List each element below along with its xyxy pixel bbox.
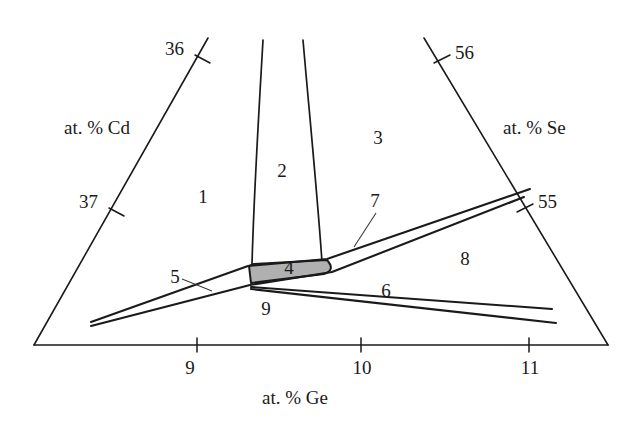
region-label-9: 9 [261, 298, 271, 319]
right-tick-label-56: 56 [455, 42, 474, 63]
region-label-8: 8 [460, 248, 470, 269]
left-tick-37 [109, 208, 124, 216]
region-label-7: 7 [370, 190, 380, 211]
bottom-tick-label-10: 10 [353, 357, 372, 378]
region-label-5: 5 [170, 266, 180, 287]
phase-diagram-canvas: at. % Cd at. % Se at. % Ge 36 37 56 55 9… [0, 0, 644, 426]
bottom-tick-label-11: 11 [521, 357, 539, 378]
left-axis-line [34, 38, 208, 345]
bottom-axis-title: at. % Ge [262, 387, 328, 408]
left-tick-36 [195, 55, 210, 63]
lower-fan-boundaries [251, 287, 556, 323]
vertical-boundaries [252, 40, 322, 264]
left-tick-label-37: 37 [79, 191, 98, 212]
ternary-phase-diagram: at. % Cd at. % Se at. % Ge 36 37 56 55 9… [0, 0, 644, 426]
region-label-3: 3 [373, 127, 383, 148]
left-tick-label-36: 36 [165, 38, 184, 59]
right-tick-label-55: 55 [538, 191, 557, 212]
region-label-2: 2 [277, 160, 287, 181]
boundary-field2-field3 [303, 40, 322, 262]
region-label-4: 4 [284, 257, 294, 278]
left-axis-title: at. % Cd [64, 117, 130, 138]
boundary-field1-field2 [252, 40, 263, 264]
region-label-1: 1 [198, 186, 208, 207]
leader-line-7 [354, 213, 376, 247]
right-axis-title: at. % Se [503, 117, 566, 138]
bottom-tick-label-9: 9 [185, 357, 195, 378]
right-axis-line [424, 38, 608, 345]
region-label-6: 6 [381, 280, 391, 301]
